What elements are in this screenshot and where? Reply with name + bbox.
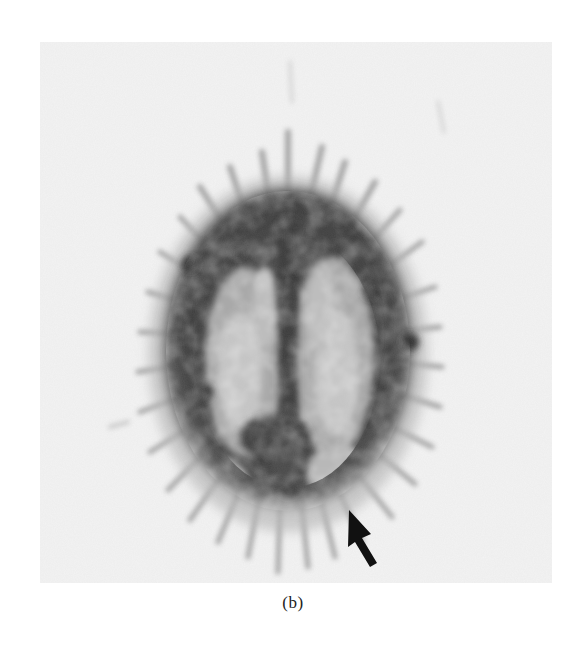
brain-scan-svg (40, 42, 552, 583)
film-grain (40, 42, 552, 583)
brain-scan-image (40, 42, 552, 583)
figure-caption: (b) (0, 593, 586, 613)
